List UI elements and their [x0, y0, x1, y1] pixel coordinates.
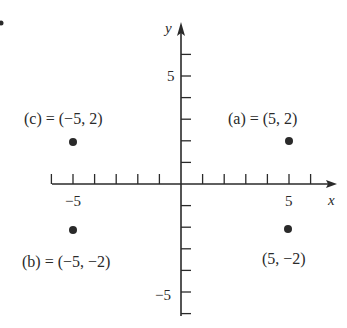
point-d	[284, 225, 292, 233]
coordinate-plane: y x −5 5 5 −5 (a) = (5, 2) (c) = (−5, 2)…	[0, 0, 347, 328]
x-tick-label-5: 5	[285, 193, 293, 209]
stray-dot	[0, 21, 4, 26]
point-b	[69, 226, 77, 234]
point-c-label: (c) = (−5, 2)	[24, 110, 102, 128]
point-c	[69, 138, 77, 146]
point-d-label: (5, −2)	[262, 250, 306, 268]
point-a-label: (a) = (5, 2)	[228, 110, 297, 128]
y-tick-label-5: 5	[167, 68, 175, 84]
x-axis-label: x	[327, 192, 335, 208]
point-a	[285, 137, 293, 145]
y-axis-label: y	[163, 20, 172, 36]
point-b-label: (b) = (−5, −2)	[22, 253, 110, 271]
y-tick-label-neg5: −5	[155, 287, 171, 303]
x-tick-label-neg5: −5	[65, 193, 81, 209]
